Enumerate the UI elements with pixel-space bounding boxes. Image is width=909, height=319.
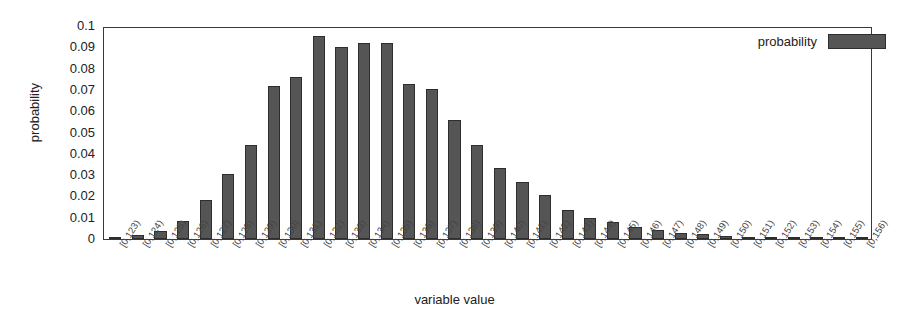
plot-area [103, 27, 872, 240]
legend-label-probability: probability [758, 34, 817, 49]
y-axis-tick-label: 0 [88, 231, 95, 246]
y-axis-tick-label: 0.02 [70, 188, 95, 203]
bar [290, 77, 302, 239]
bar [268, 86, 280, 239]
y-axis-tick-label: 0.06 [70, 103, 95, 118]
bar [335, 47, 347, 239]
y-axis-tick-label: 0.01 [70, 210, 95, 225]
bar [313, 36, 325, 239]
y-axis-tick-label: 0.08 [70, 61, 95, 76]
legend-swatch-probability [828, 34, 886, 49]
y-axis-tick-label: 0.03 [70, 167, 95, 182]
bar [381, 43, 393, 239]
y-axis-tick-label: 0.04 [70, 146, 95, 161]
bar [358, 43, 370, 239]
bar-series-probability [104, 28, 871, 239]
y-axis-tick-label: 0.07 [70, 82, 95, 97]
bar [403, 84, 415, 239]
y-axis-tick-label: 0.09 [70, 39, 95, 54]
bar-chart: probability 00.010.020.030.040.050.060.0… [0, 0, 909, 319]
y-axis-title: probability [27, 38, 42, 188]
chart-legend: probability [752, 31, 892, 52]
y-axis-tick-label: 0.05 [70, 125, 95, 140]
bar [426, 89, 438, 239]
y-axis-tick-label: 0.1 [77, 18, 95, 33]
x-axis-title: variable value [0, 292, 909, 307]
